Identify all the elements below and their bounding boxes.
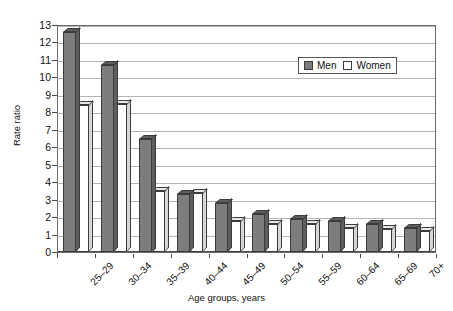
x-tick-mark [133,254,134,258]
bar-side-face [241,215,245,252]
y-tick-label: 6 [5,142,51,152]
bar-men-40_44 [177,194,190,252]
y-tick-label: 9 [5,90,51,100]
bar-side-face [89,100,93,252]
bar-men-65_69 [366,224,379,252]
bar-side-face [203,188,207,252]
bar-men-70+ [404,228,417,252]
bar-chart-figure: Rate ratio 012345678910111213 MenWomen 2… [0,0,453,311]
y-tick-label: 13 [5,20,51,30]
bar-men-30_34 [101,65,114,252]
bar-side-face [379,219,383,252]
y-tick-label: 4 [5,177,51,187]
gridline [58,43,435,44]
bar-face [252,214,265,252]
bar-face [139,139,152,253]
bar-men-50_54 [252,214,265,252]
bar-men-60_64 [328,221,341,252]
x-tick-label: 50–54 [278,260,305,287]
bar-face [328,221,341,252]
y-tick-label: 7 [5,125,51,135]
bar-face [177,194,190,252]
bar-face [63,32,76,252]
legend: MenWomen [298,57,397,74]
legend-item-women: Women [343,61,390,71]
y-tick-label: 3 [5,195,51,205]
x-tick-label: 70+ [427,260,447,280]
bar-side-face [265,208,269,252]
bar-face [215,203,228,252]
x-tick-label: 30–34 [127,260,154,287]
x-tick-mark [209,254,210,258]
x-tick-mark [284,254,285,258]
legend-swatch-icon [343,61,352,70]
x-axis-title: Age groups, years [0,292,453,303]
bar-side-face [127,98,131,252]
bar-side-face [303,214,307,252]
legend-item-men: Men [304,61,336,71]
bar-men-35_39 [139,139,152,253]
bar-side-face [278,219,282,252]
bar-face [290,219,303,252]
bar-side-face [152,133,156,252]
bar-side-face [228,198,232,252]
y-tick-label: 5 [5,160,51,170]
bar-face [101,65,114,252]
bar-side-face [165,186,169,252]
x-tick-label: 25–29 [89,260,116,287]
legend-swatch-icon [304,61,313,70]
x-tick-label: 60–64 [354,260,381,287]
x-tick-mark [398,254,399,258]
bar-side-face [114,60,118,252]
x-tick-label: 35–39 [164,260,191,287]
y-tick-label: 2 [5,212,51,222]
x-tick-mark [247,254,248,258]
x-tick-mark [322,254,323,258]
x-tick-mark [95,254,96,258]
bar-face [366,224,379,252]
bar-side-face [341,215,345,252]
x-tick-mark [360,254,361,258]
y-tick-label: 1 [5,230,51,240]
bar-men-25_29 [63,32,76,252]
bar-men-55_59 [290,219,303,252]
legend-label: Women [356,61,390,71]
y-tick-label: 10 [5,72,51,82]
x-tick-mark [171,254,172,258]
gridline [58,26,435,27]
y-tick-label: 0 [5,247,51,257]
bar-side-face [76,27,80,252]
x-tick-label: 55–59 [316,260,343,287]
x-tick-label: 65–69 [392,260,419,287]
x-tick-mark [436,254,437,258]
bar-face [404,228,417,252]
x-tick-label: 40–44 [202,260,229,287]
legend-label: Men [317,61,336,71]
y-tick-label: 8 [5,107,51,117]
y-tick-label: 11 [5,55,51,65]
y-tick-label: 12 [5,37,51,47]
x-tick-mark [57,254,58,258]
bar-men-45_49 [215,203,228,252]
y-axis-ticks: 012345678910111213 [0,0,51,311]
bar-side-face [190,189,194,252]
x-tick-label: 45–49 [240,260,267,287]
bar-side-face [316,219,320,252]
